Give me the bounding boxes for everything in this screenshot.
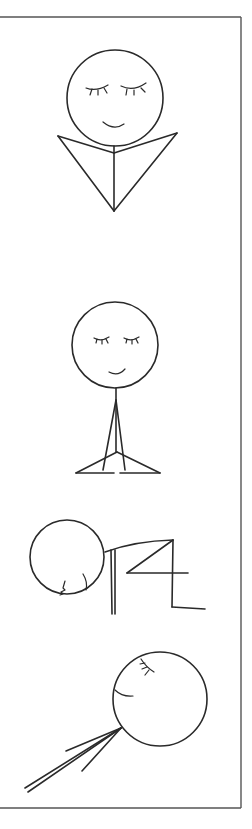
smile-icon xyxy=(109,369,125,374)
head-icon xyxy=(113,652,207,746)
closed-eye-icon xyxy=(140,659,154,675)
figure-pose-2 xyxy=(72,302,160,473)
head-icon xyxy=(67,50,163,146)
smile-icon xyxy=(115,690,133,696)
figure-pose-1 xyxy=(58,50,177,211)
smile-icon xyxy=(83,574,87,590)
illustration-canvas xyxy=(0,0,252,829)
head-icon xyxy=(72,302,158,388)
v-arms xyxy=(58,133,177,211)
crossed-legs xyxy=(76,452,160,473)
figure-pose-4 xyxy=(25,652,207,792)
closed-eyes-icon xyxy=(86,83,146,95)
frame xyxy=(0,17,241,808)
closed-eyes-icon xyxy=(94,337,139,344)
smile-icon xyxy=(103,122,124,127)
head-icon xyxy=(30,520,104,594)
extended-limbs xyxy=(25,728,121,792)
figure-pose-3 xyxy=(30,520,205,614)
folded-body xyxy=(105,540,205,614)
